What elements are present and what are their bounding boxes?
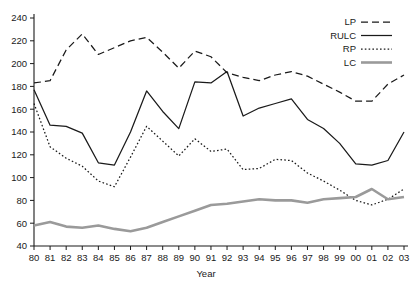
y-axis-tick-label: 180 xyxy=(11,81,27,92)
y-axis-tick-label: 200 xyxy=(11,58,27,69)
x-axis-tick-label: 90 xyxy=(190,252,201,263)
x-axis-tick-label: 94 xyxy=(254,252,265,263)
x-axis-tick-label: 03 xyxy=(399,252,410,263)
x-axis-tick-label: 86 xyxy=(125,252,136,263)
x-axis-tick-label: 99 xyxy=(334,252,345,263)
x-axis-tick-label: 89 xyxy=(173,252,184,263)
legend-label-rulc: RULC xyxy=(330,30,356,41)
x-axis-tick-label: 87 xyxy=(141,252,152,263)
x-axis-tick-label: 97 xyxy=(302,252,313,263)
series-line-lc xyxy=(34,189,404,231)
legend-label-rp: RP xyxy=(343,43,356,54)
x-axis-tick-label: 83 xyxy=(77,252,88,263)
x-axis-tick-label: 98 xyxy=(318,252,329,263)
x-axis-tick-label: 01 xyxy=(367,252,378,263)
y-axis-tick-label: 100 xyxy=(11,172,27,183)
y-axis-tick-label: 140 xyxy=(11,126,27,137)
x-axis-tick-label: 95 xyxy=(270,252,281,263)
x-axis-tick-label: 88 xyxy=(157,252,168,263)
x-axis-tick-label: 82 xyxy=(61,252,72,263)
y-axis-tick-label: 160 xyxy=(11,104,27,115)
x-axis-tick-label: 93 xyxy=(238,252,249,263)
legend-label-lc: LC xyxy=(344,57,356,68)
legend-label-lp: LP xyxy=(344,16,356,27)
x-axis-tick-label: 92 xyxy=(222,252,233,263)
chart-legend: LPRULCRPLC xyxy=(330,16,392,68)
x-axis-tick-label: 96 xyxy=(286,252,297,263)
x-axis-tick-label: 91 xyxy=(206,252,217,263)
x-axis: 8081828384858687888990919293949596979899… xyxy=(29,246,410,263)
y-axis-tick-label: 120 xyxy=(11,149,27,160)
x-axis-tick-label: 80 xyxy=(29,252,40,263)
x-axis-tick-label: 00 xyxy=(350,252,361,263)
x-axis-title: Year xyxy=(196,268,215,279)
x-axis-tick-label: 02 xyxy=(383,252,394,263)
chart-canvas: 406080100120140160180200220240 808182838… xyxy=(0,0,413,281)
x-axis-tick-label: 81 xyxy=(45,252,56,263)
x-axis-tick-label: 84 xyxy=(93,252,104,263)
x-axis-tick-label: 85 xyxy=(109,252,120,263)
series-line-rulc xyxy=(34,72,404,165)
y-axis-tick-label: 60 xyxy=(16,218,27,229)
y-axis: 406080100120140160180200220240 xyxy=(11,12,34,251)
line-chart: 406080100120140160180200220240 808182838… xyxy=(0,0,413,281)
y-axis-tick-label: 220 xyxy=(11,35,27,46)
y-axis-tick-label: 40 xyxy=(16,240,27,251)
y-axis-tick-label: 240 xyxy=(11,12,27,23)
y-axis-tick-label: 80 xyxy=(16,195,27,206)
